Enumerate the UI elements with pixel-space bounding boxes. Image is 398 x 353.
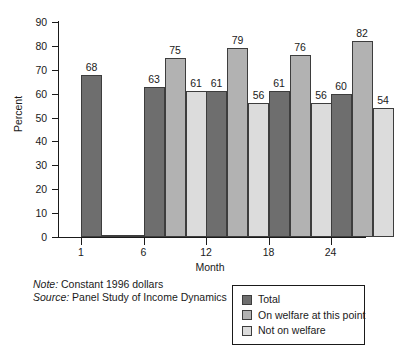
bar-value-label: 54	[367, 95, 398, 106]
legend-item: On welfare at this point	[242, 308, 364, 324]
source-text: Panel Study of Income Dynamics	[72, 291, 227, 303]
y-axis-tick-label: 20	[7, 184, 47, 194]
bar-value-label: 79	[221, 35, 254, 46]
x-axis-tick-label: 6	[124, 246, 164, 258]
legend-item: Total	[242, 292, 364, 308]
note-line: Note: Constant 1996 dollars	[33, 278, 227, 291]
y-axis-tick	[52, 141, 59, 142]
x-axis-tick	[81, 238, 82, 245]
legend-item: Not on welfare	[242, 323, 364, 339]
y-axis-tick	[52, 70, 59, 71]
bar	[373, 108, 394, 237]
legend-swatch	[242, 310, 252, 320]
x-axis-tick	[206, 238, 207, 245]
y-axis-tick-label: 0	[7, 232, 47, 242]
bar	[81, 75, 102, 237]
x-axis-tick	[331, 238, 332, 245]
y-axis-tick	[52, 94, 59, 95]
legend-label: Total	[258, 294, 280, 305]
y-axis-tick	[52, 165, 59, 166]
legend-label: On welfare at this point	[258, 310, 365, 321]
bar	[186, 91, 207, 237]
bar	[290, 55, 311, 237]
source-line: Source: Panel Study of Income Dynamics	[33, 291, 227, 304]
x-axis-tick-label: 24	[311, 246, 351, 258]
chart-legend: TotalOn welfare at this pointNot on welf…	[232, 285, 365, 345]
x-axis-tick-label: 18	[249, 246, 289, 258]
y-axis-tick	[52, 46, 59, 47]
y-axis-tick	[52, 189, 59, 190]
y-axis-title: Percent	[12, 74, 24, 154]
note-label: Note:	[33, 278, 58, 290]
bar	[206, 91, 227, 237]
note-text: Constant 1996 dollars	[61, 278, 163, 290]
plot-area: 68637561617956617656608254	[59, 22, 365, 237]
bar	[227, 48, 248, 237]
bar	[269, 91, 290, 237]
y-axis-tick-label: 80	[7, 41, 47, 51]
x-axis-line	[58, 237, 366, 238]
legend-label: Not on welfare	[258, 325, 326, 336]
bar-value-label: 82	[346, 28, 379, 39]
y-axis-tick	[52, 22, 59, 23]
x-axis-tick	[144, 238, 145, 245]
y-axis-tick-label: 30	[7, 160, 47, 170]
legend-swatch	[242, 326, 252, 336]
bar-value-label: 76	[284, 42, 317, 53]
x-axis-tick-label: 1	[61, 246, 101, 258]
y-axis-tick-label: 90	[7, 17, 47, 27]
bar	[144, 87, 165, 238]
chart-notes: Note: Constant 1996 dollars Source: Pane…	[33, 278, 227, 304]
bar-value-label: 75	[159, 45, 192, 56]
y-axis-tick	[52, 213, 59, 214]
bar	[331, 94, 352, 237]
bar	[102, 235, 123, 237]
y-axis-tick	[52, 237, 59, 238]
bar	[123, 235, 144, 237]
y-axis-tick-label: 10	[7, 208, 47, 218]
x-axis-title: Month	[0, 261, 374, 273]
bar	[248, 103, 269, 237]
x-axis-tick-label: 12	[186, 246, 226, 258]
legend-swatch	[242, 295, 252, 305]
bar	[352, 41, 373, 237]
x-axis-tick	[269, 238, 270, 245]
y-axis-tick	[52, 118, 59, 119]
bar	[311, 103, 332, 237]
bar-value-label: 68	[75, 62, 108, 73]
source-label: Source:	[33, 291, 69, 303]
